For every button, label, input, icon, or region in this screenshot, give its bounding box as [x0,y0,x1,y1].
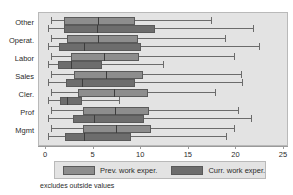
boxplot-prev-other [39,17,287,25]
x-axis-tick [140,146,141,149]
box-group-prof [39,107,287,125]
boxplot-curr-labor [39,61,287,69]
y-axis-label-prof: Prof [0,108,34,117]
boxplot-curr-cler [39,97,287,105]
boxplot-prev-prof [39,107,287,115]
legend-label-prev: Prev. work exper. [100,166,157,175]
whisker-cap-high [234,125,235,132]
whisker-cap-high [242,79,243,86]
median-line [104,53,105,61]
median-line [106,71,107,79]
boxplot-figure: OtherOperat.LaborSalesCler.ProfMgmt 0510… [0,0,293,195]
footnote: excludes outside values [40,182,114,189]
whisker-cap-low [48,115,49,122]
legend-swatch-curr [171,166,203,175]
whisker-cap-high [253,25,254,32]
box [73,115,144,123]
whisker-cap-high [251,115,252,122]
legend-swatch-prev [63,166,95,175]
whisker-cap-low [48,79,49,86]
whisker-cap-high [241,71,242,78]
whisker-cap-low [51,71,52,78]
median-line [67,97,68,105]
box-group-mgmt [39,125,287,143]
x-axis-tick-label: 25 [279,150,287,159]
box-group-cler [39,89,287,107]
whisker-cap-low [48,25,49,32]
median-line [98,35,99,43]
x-axis-tick [45,146,46,149]
boxplot-curr-sales [39,79,287,87]
whisker-cap-low [51,53,52,60]
whisker-cap-high [225,35,226,42]
x-axis-tick [283,146,284,149]
whisker-cap-low [48,61,49,68]
boxplot-curr-mgmt [39,133,287,141]
box [60,97,82,105]
box [65,133,131,141]
box-group-labor [39,53,287,71]
y-axis-label-mgmt: Mgmt [0,126,34,135]
median-line [116,125,117,133]
x-axis-tick-label: 15 [184,150,192,159]
median-line [94,115,95,123]
y-axis-label-operat: Operat. [0,36,34,45]
box [64,25,155,33]
median-line [71,61,72,69]
median-line [114,89,115,97]
box-group-operat [39,35,287,53]
whisker-cap-low [48,97,49,104]
legend: Prev. work exper. Curr. work exper. [54,161,266,179]
whisker-cap-high [163,61,164,68]
legend-entry-prev: Prev. work exper. [63,166,157,175]
whisker-cap-low [51,35,52,42]
box [58,61,102,69]
whisker-cap-low [48,133,49,140]
whisker-cap-high [259,43,260,50]
whisker-cap-low [51,107,52,114]
whisker-cap-high [238,107,239,114]
whisker-line [48,100,119,101]
x-axis-tick [235,146,236,149]
median-line [84,133,85,141]
boxplot-prev-sales [39,71,287,79]
box [66,79,135,87]
boxplot-curr-operat [39,43,287,51]
boxplot-prev-cler [39,89,287,97]
y-axis-label-sales: Sales [0,72,34,81]
box-group-other [39,17,287,35]
box [67,35,138,43]
x-axis-tick [188,146,189,149]
whisker-cap-high [211,17,212,24]
legend-label-curr: Curr. work exper. [208,166,265,175]
box [74,71,143,79]
whisker-cap-low [51,17,52,24]
median-line [97,25,98,33]
median-line [98,17,99,25]
boxplot-prev-labor [39,53,287,61]
x-axis-tick [93,146,94,149]
whisker-cap-high [119,97,120,104]
y-axis-label-other: Other [0,18,34,27]
boxplot-prev-mgmt [39,125,287,133]
whisker-cap-high [226,133,227,140]
x-axis-tick-label: 10 [136,150,144,159]
median-line [82,79,83,87]
x-axis-tick-label: 20 [231,150,239,159]
whisker-cap-low [51,125,52,132]
median-line [84,43,85,51]
x-axis-line [38,146,288,147]
box-group-sales [39,71,287,89]
boxplot-curr-prof [39,115,287,123]
whisker-cap-low [48,43,49,50]
boxplot-prev-operat [39,35,287,43]
y-axis-label-cler: Cler. [0,90,34,99]
x-axis-tick-label: 5 [91,150,95,159]
x-axis-tick-label: 0 [43,150,47,159]
legend-entry-curr: Curr. work exper. [171,166,265,175]
whisker-cap-high [215,89,216,96]
box [59,43,141,51]
whisker-cap-high [234,53,235,60]
boxplot-curr-other [39,25,287,33]
plot-area [38,12,288,146]
